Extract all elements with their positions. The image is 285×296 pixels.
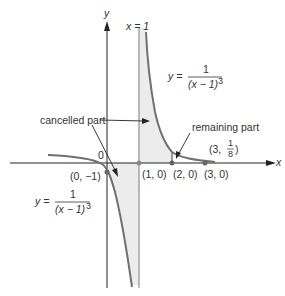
point-label-1-0: (1, 0) (142, 168, 167, 180)
point-0-neg1 (105, 170, 110, 175)
equation-upper-numerator: 1 (203, 63, 209, 75)
equation-lower-numerator: 1 (70, 188, 76, 200)
point-3-eighth-num: 1 (228, 138, 233, 148)
graph: y x 0 x = 1 y = 1 (x − 1) 3 y = 1 (x − 1… (0, 0, 285, 296)
point-1-0 (137, 161, 142, 166)
equation-upper-denominator: (x − 1) (188, 78, 218, 90)
equation-lower-lhs: y = (34, 195, 49, 207)
equation-upper-exponent: 3 (218, 76, 223, 86)
equation-upper-lhs: y = (167, 70, 182, 82)
origin-label: 0 (98, 149, 104, 161)
remaining-arrowhead-icon (176, 151, 181, 159)
point-3-eighth-prefix: (3, (209, 143, 221, 155)
point-3-eighth-den: 8 (228, 149, 233, 159)
y-axis-arrow-icon (104, 21, 110, 31)
point-label-3-0: (3, 0) (204, 168, 229, 180)
point-3-0 (203, 161, 208, 166)
remaining-arrow (178, 133, 190, 155)
x-axis-arrow-icon (266, 160, 276, 166)
equation-lower-exponent: 3 (86, 201, 91, 211)
point-3-eighth-suffix: ) (235, 143, 239, 155)
point-label-0-neg1: (0, −1) (70, 170, 101, 182)
x-axis-label: x (275, 156, 282, 168)
cancelled-part-label: cancelled part (40, 114, 105, 126)
y-axis-label: y (103, 7, 110, 19)
remaining-part-label: remaining part (192, 121, 259, 133)
asymptote-label: x = 1 (125, 20, 149, 32)
equation-lower-denominator: (x − 1) (55, 203, 85, 215)
shaded-region-upper (139, 28, 172, 163)
point-label-2-0: (2, 0) (173, 168, 198, 180)
